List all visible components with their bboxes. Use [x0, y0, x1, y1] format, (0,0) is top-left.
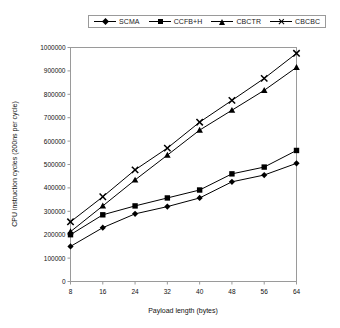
y-axis-ticks: 0100000200000300000400000500000600000700…	[40, 44, 70, 285]
chart-container: SCMA CCFB+H CBCTR CBCBC 0100000200000300…	[0, 0, 340, 328]
data-point-square	[197, 187, 202, 192]
data-point-square	[262, 164, 267, 169]
data-point-square	[294, 148, 299, 153]
x-axis-title: Payload length (bytes)	[148, 307, 218, 315]
x-tick-label: 48	[228, 288, 236, 295]
y-tick-label: 800000	[44, 91, 66, 98]
y-tick-label: 700000	[44, 114, 66, 121]
x-axis-ticks: 816243240485664	[69, 282, 301, 295]
data-point-square	[100, 212, 105, 217]
x-tick-label: 32	[164, 288, 172, 295]
data-point-square	[229, 171, 234, 176]
x-tick-label: 64	[293, 288, 301, 295]
x-tick-label: 56	[261, 288, 269, 295]
y-tick-label: 600000	[44, 138, 66, 145]
x-tick-label: 16	[99, 288, 107, 295]
y-tick-label: 400000	[44, 184, 66, 191]
data-point-square	[165, 195, 170, 200]
x-tick-label: 8	[69, 288, 73, 295]
y-tick-label: 300000	[44, 208, 66, 215]
y-tick-label: 1000000	[40, 44, 66, 51]
plot-area: 0100000200000300000400000500000600000700…	[0, 0, 340, 328]
y-tick-label: 200000	[44, 231, 66, 238]
x-tick-label: 40	[196, 288, 204, 295]
y-tick-label: 100000	[44, 255, 66, 262]
y-tick-label: 900000	[44, 67, 66, 74]
y-axis-title: CPU instruction cycles (200ns per cycle)	[11, 101, 19, 227]
y-tick-label: 500000	[44, 161, 66, 168]
data-point-square	[132, 203, 137, 208]
x-tick-label: 24	[131, 288, 139, 295]
y-tick-label: 0	[62, 278, 66, 285]
